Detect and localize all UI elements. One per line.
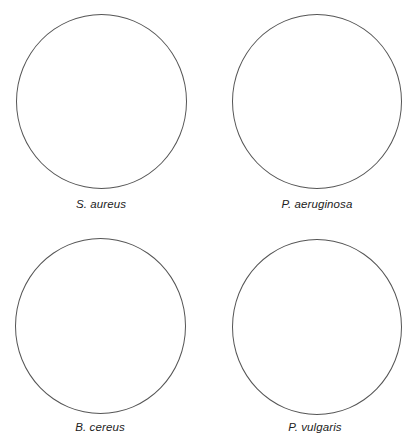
plate-label-p-aeruginosa: P. aeruginosa — [237, 198, 397, 210]
plate-label-p-vulgaris: P. vulgaris — [235, 421, 395, 433]
plate-label-b-cereus: B. cereus — [20, 421, 180, 433]
petri-plate-p-aeruginosa — [232, 14, 402, 189]
plate-label-s-aureus: S. aureus — [21, 198, 181, 210]
petri-plate-p-vulgaris — [232, 239, 402, 415]
petri-plate-b-cereus — [15, 238, 186, 414]
petri-plate-s-aureus — [16, 14, 187, 189]
